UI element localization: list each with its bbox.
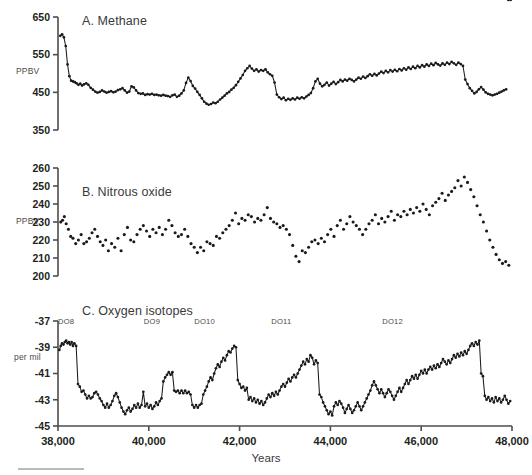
- data-point: [241, 74, 244, 77]
- data-point: [251, 400, 254, 403]
- data-point: [342, 406, 345, 409]
- data-point: [145, 229, 148, 232]
- data-point: [167, 371, 170, 374]
- data-point: [465, 352, 468, 355]
- data-point: [316, 362, 319, 365]
- data-point: [391, 394, 394, 397]
- data-point: [364, 228, 367, 231]
- data-point: [187, 391, 190, 394]
- data-point: [371, 74, 374, 77]
- data-point: [360, 409, 363, 412]
- data-point: [478, 339, 481, 342]
- data-point: [71, 237, 74, 240]
- data-point: [380, 217, 383, 220]
- data-point: [195, 404, 198, 407]
- data-point: [102, 404, 105, 407]
- data-point: [469, 188, 472, 191]
- data-point: [304, 251, 307, 254]
- x-tick-label: 44,000: [314, 435, 348, 447]
- data-point: [389, 391, 392, 394]
- data-point: [114, 90, 117, 93]
- data-point: [221, 96, 224, 99]
- data-point: [230, 88, 233, 91]
- data-point: [216, 363, 219, 366]
- data-point: [64, 45, 67, 48]
- data-point: [253, 70, 256, 73]
- data-point: [273, 394, 276, 397]
- data-point: [377, 222, 380, 225]
- data-point: [429, 366, 432, 369]
- data-point: [423, 368, 426, 371]
- data-point: [367, 222, 370, 225]
- data-point: [183, 228, 186, 231]
- data-point: [231, 347, 234, 350]
- data-point: [307, 246, 310, 249]
- data-point: [339, 219, 342, 222]
- data-point: [440, 362, 443, 365]
- data-point: [137, 402, 140, 405]
- data-point: [248, 65, 251, 68]
- data-point: [151, 408, 154, 411]
- data-point: [458, 355, 461, 358]
- data-point: [84, 393, 87, 396]
- data-point: [121, 87, 124, 90]
- data-point: [164, 376, 167, 379]
- data-point: [63, 36, 66, 39]
- data-point: [442, 358, 445, 361]
- data-point: [387, 71, 390, 74]
- data-point: [345, 222, 348, 225]
- y-tick-label: 200: [32, 270, 50, 282]
- data-point: [169, 373, 172, 376]
- data-point: [464, 78, 467, 81]
- data-point: [285, 99, 288, 102]
- data-point: [467, 349, 470, 352]
- data-point: [428, 213, 431, 216]
- data-point: [402, 387, 405, 390]
- data-point: [167, 219, 170, 222]
- data-point: [58, 349, 61, 352]
- data-point: [447, 193, 450, 196]
- data-point: [456, 179, 459, 182]
- data-point: [342, 228, 345, 231]
- data-point: [231, 219, 234, 222]
- data-point: [250, 215, 253, 218]
- y-tick-label: 260: [32, 162, 50, 174]
- data-point: [224, 359, 227, 362]
- data-point: [376, 388, 379, 391]
- data-point: [482, 88, 485, 91]
- data-point: [142, 224, 145, 227]
- data-point: [383, 220, 386, 223]
- data-point: [273, 81, 276, 84]
- data-point: [104, 238, 107, 241]
- data-point: [456, 352, 459, 355]
- data-point: [310, 240, 313, 243]
- data-series-line: [59, 341, 510, 416]
- data-point: [272, 220, 275, 223]
- data-point: [311, 356, 314, 359]
- data-point: [269, 73, 272, 76]
- do-event-label: DO11: [271, 317, 291, 326]
- data-point: [479, 213, 482, 216]
- data-point: [209, 376, 212, 379]
- y-tick-label: 240: [32, 198, 50, 210]
- data-point: [483, 394, 486, 397]
- data-point: [475, 204, 478, 207]
- data-point: [255, 401, 258, 404]
- data-point: [474, 341, 477, 344]
- x-axis-title: Years: [0, 452, 532, 464]
- do-event-label: DO10: [194, 317, 215, 326]
- data-point: [396, 391, 399, 394]
- data-point: [491, 397, 494, 400]
- data-point: [485, 398, 488, 401]
- data-point: [182, 89, 185, 92]
- data-point: [331, 414, 334, 417]
- data-point: [240, 217, 243, 220]
- data-point: [271, 392, 274, 395]
- data-point: [491, 246, 494, 249]
- data-point: [149, 404, 152, 407]
- data-point: [326, 233, 329, 236]
- data-point: [329, 410, 332, 413]
- data-point: [309, 354, 312, 357]
- data-point: [374, 384, 377, 387]
- data-point: [371, 219, 374, 222]
